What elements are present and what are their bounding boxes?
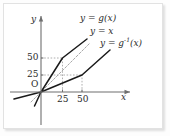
curve-label-g: y = g(x) <box>80 14 116 23</box>
y-axis-label: y <box>31 15 36 24</box>
x-tick-label-50: 50 <box>77 95 88 104</box>
curve-label-g-inverse: y = g-1(x) <box>100 37 142 48</box>
x-axis-label: x <box>121 93 126 102</box>
math-figure: y x O 50 25 25 50 y = g(x) y = x y = g-1… <box>0 0 170 136</box>
x-tick-label-25: 25 <box>57 95 68 104</box>
curve-label-identity: y = x <box>90 27 113 36</box>
y-axis-arrow-icon <box>39 16 43 22</box>
curve-label-g-inverse-lead: y = g <box>100 38 124 48</box>
y-tick-label-50: 50 <box>27 53 38 62</box>
curve-label-g-inverse-tail: (x) <box>130 38 142 48</box>
origin-label: O <box>31 80 38 89</box>
y-tick-label-25: 25 <box>27 70 38 79</box>
